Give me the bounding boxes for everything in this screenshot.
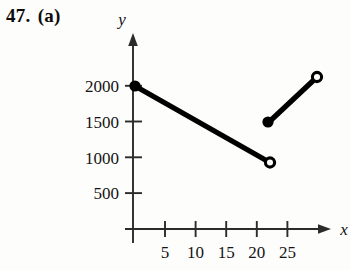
- y-tick-label-1000: 1000: [85, 149, 119, 168]
- piecewise-function-plot: y x 2000 1500 1000 500 5 10 15 20 25: [0, 0, 350, 270]
- x-tick-label-25: 25: [279, 243, 296, 262]
- x-tick-label-5: 5: [161, 243, 170, 262]
- data-segment-2: [269, 78, 317, 123]
- y-tick-label-2000: 2000: [85, 77, 119, 96]
- y-axis-arrow-icon: [128, 33, 138, 46]
- x-tick-label-15: 15: [218, 243, 235, 262]
- y-tick-label-1500: 1500: [85, 113, 119, 132]
- y-axis-label: y: [116, 10, 126, 29]
- x-axis-label: x: [339, 220, 348, 239]
- y-tick-label-500: 500: [94, 184, 120, 203]
- x-axis-arrow-icon: [318, 224, 331, 234]
- marker-closed-b: [262, 116, 273, 127]
- figure-page: 47.(a) y x 2000 1500 1000 500 5 10 15 20…: [0, 0, 350, 270]
- marker-open-a: [265, 158, 274, 167]
- marker-open-b: [312, 72, 321, 81]
- x-tick-label-20: 20: [248, 243, 265, 262]
- x-tick-label-10: 10: [187, 243, 204, 262]
- data-segment-1: [135, 86, 269, 162]
- marker-closed-a: [129, 80, 140, 91]
